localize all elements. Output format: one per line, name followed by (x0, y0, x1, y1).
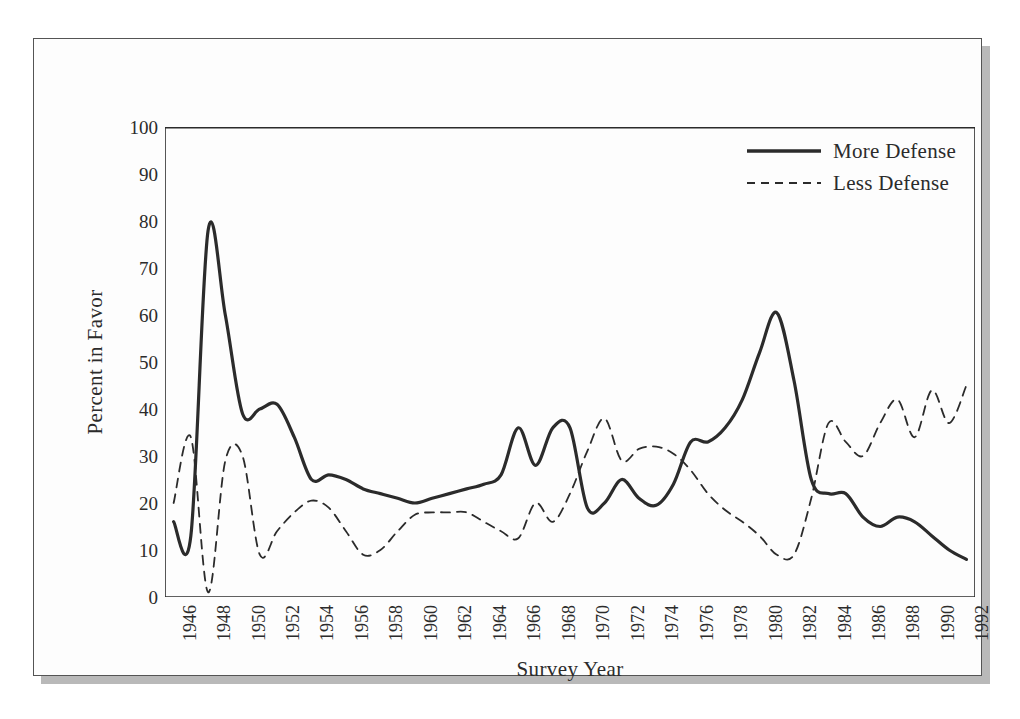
x-axis-tick-label: 1966 (525, 605, 543, 641)
x-axis-tick-label: 1952 (284, 605, 302, 641)
x-axis-tick-label: 1974 (663, 605, 681, 641)
legend-item: More Defense (747, 135, 963, 167)
x-axis-tick-label: 1990 (939, 605, 957, 641)
x-axis-tick-label: 1964 (491, 605, 509, 641)
y-axis-tick-label: 90 (116, 165, 158, 184)
y-axis-tick-label: 70 (116, 259, 158, 278)
x-axis-tick-label: 1958 (387, 605, 405, 641)
x-axis-tick-label: 1956 (353, 605, 371, 641)
x-axis-tick-label: 1978 (732, 605, 750, 641)
y-axis-title: Percent in Favor (80, 127, 110, 597)
chart-legend: More DefenseLess Defense (747, 135, 963, 199)
series-line-less-defense (174, 386, 967, 593)
x-axis-tick-label: 1988 (904, 605, 922, 641)
x-axis-tick-label: 1992 (973, 605, 991, 641)
x-axis-tick-label: 1982 (801, 605, 819, 641)
legend-line-swatch-dashed (747, 175, 821, 191)
legend-label: More Defense (833, 139, 956, 164)
figure-frame: Percent in Favor 0102030405060708090100 … (33, 38, 982, 676)
x-axis-tick-label: 1976 (698, 605, 716, 641)
y-axis-tick-label: 30 (116, 447, 158, 466)
x-axis-tick-label: 1984 (836, 605, 854, 641)
x-axis-tick-label: 1946 (181, 605, 199, 641)
y-axis-tick-label: 20 (116, 494, 158, 513)
x-axis-tick-label: 1986 (870, 605, 888, 641)
y-axis-tick-label: 80 (116, 212, 158, 231)
legend-item: Less Defense (747, 167, 963, 199)
x-axis-tick-label: 1962 (456, 605, 474, 641)
x-axis-tick-label: 1960 (422, 605, 440, 641)
x-axis-tick-label: 1954 (318, 605, 336, 641)
x-axis-tick-labels: 1946194819501952195419561958196019621964… (165, 605, 975, 661)
y-axis-tick-label: 10 (116, 541, 158, 560)
y-axis-tick-labels: 0102030405060708090100 (110, 127, 158, 597)
legend-label: Less Defense (833, 171, 949, 196)
x-axis-tick-label: 1948 (215, 605, 233, 641)
x-axis-tick-label: 1950 (250, 605, 268, 641)
x-axis-tick-label: 1972 (629, 605, 647, 641)
x-axis-tick-label: 1968 (560, 605, 578, 641)
y-axis-tick-label: 100 (116, 118, 158, 137)
x-axis-tick-label: 1970 (594, 605, 612, 641)
y-axis-tick-label: 50 (116, 353, 158, 372)
y-axis-tick-label: 0 (116, 588, 158, 607)
y-axis-tick-label: 40 (116, 400, 158, 419)
x-axis-tick-label: 1980 (767, 605, 785, 641)
x-axis-title: Survey Year (165, 657, 975, 682)
legend-line-swatch-solid (747, 143, 821, 159)
series-line-more-defense (174, 222, 967, 560)
y-axis-tick-label: 60 (116, 306, 158, 325)
